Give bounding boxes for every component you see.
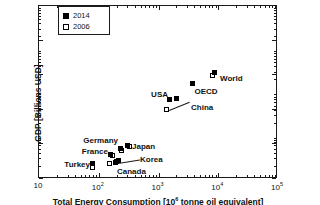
- x-tick-minor: [57, 175, 58, 177]
- x-tick-minor: [216, 6, 217, 8]
- y-tick-minor: [39, 94, 41, 95]
- y-tick-minor: [39, 145, 41, 146]
- x-tick-minor: [68, 175, 69, 177]
- x-tick-minor: [209, 175, 210, 177]
- x-tick-minor: [269, 175, 270, 177]
- y-tick-minor: [39, 59, 41, 60]
- y-tick-minor: [39, 19, 41, 20]
- x-tick-minor: [265, 6, 266, 8]
- y-tick-minor: [39, 62, 41, 63]
- x-tick-minor: [200, 175, 201, 177]
- point-label-china: China: [191, 103, 213, 112]
- x-tick-minor: [176, 6, 177, 8]
- x-tick-minor: [265, 175, 266, 177]
- y-tick-minor: [39, 56, 41, 57]
- x-tick-minor: [216, 175, 217, 177]
- y-tick-minor: [39, 102, 41, 103]
- leader-line-china: [169, 102, 190, 111]
- x-tick-minor: [156, 175, 157, 177]
- y-tick-minor: [39, 153, 41, 154]
- legend-label-2006: 2006: [73, 22, 90, 31]
- x-tick-label-100000: 105: [271, 181, 283, 192]
- x-tick-minor: [153, 6, 154, 8]
- data-point-2014-china[interactable]: [174, 96, 179, 101]
- y-tick-minor: [39, 29, 41, 30]
- x-tick-minor: [247, 6, 248, 8]
- y-tick-minor: [274, 51, 276, 52]
- x-tick-minor: [176, 175, 177, 177]
- y-tick-minor: [274, 19, 276, 20]
- x-tick-minor: [145, 175, 146, 177]
- y-tick-minor: [274, 145, 276, 146]
- y-tick-minor: [39, 166, 41, 167]
- x-tick-minor: [194, 6, 195, 8]
- x-tick-label-1000: 103: [152, 181, 164, 192]
- legend-entry-2006[interactable]: 2006: [63, 21, 105, 32]
- y-tick-minor: [274, 59, 276, 60]
- x-tick-minor: [194, 175, 195, 177]
- y-tick-minor: [274, 138, 276, 139]
- x-tick-minor: [85, 175, 86, 177]
- y-tick-minor: [39, 13, 41, 14]
- point-label-usa: USA: [151, 90, 168, 99]
- y-tick-minor: [274, 8, 276, 9]
- y-tick-minor: [274, 153, 276, 154]
- y-tick-minor: [274, 140, 276, 141]
- y-tick-minor: [39, 123, 41, 124]
- data-point-2014-world[interactable]: [212, 70, 217, 75]
- y-tick-minor: [274, 158, 276, 159]
- x-tick-minor: [149, 175, 150, 177]
- y-tick-minor: [274, 29, 276, 30]
- y-tick-minor: [274, 106, 276, 107]
- y-tick-minor: [274, 62, 276, 63]
- x-tick-minor: [187, 175, 188, 177]
- x-tick-major-top: [159, 6, 160, 10]
- x-tick-minor: [117, 175, 118, 177]
- x-tick-minor: [272, 175, 273, 177]
- data-point-2014-germany[interactable]: [118, 146, 123, 151]
- x-tick-minor: [93, 175, 94, 177]
- y-tick-major: [39, 74, 43, 75]
- data-point-2014-turkey[interactable]: [90, 161, 95, 166]
- data-point-2014-japan[interactable]: [125, 143, 130, 148]
- x-tick-minor: [135, 6, 136, 8]
- x-tick-minor: [141, 6, 142, 8]
- x-tick-minor: [127, 6, 128, 8]
- y-tick-minor: [39, 149, 41, 150]
- point-label-turkey: Turkey: [64, 160, 90, 169]
- x-tick-label-100: 102: [92, 181, 104, 192]
- data-point-2006-canada[interactable]: [107, 161, 112, 166]
- y-tick-minor: [274, 36, 276, 37]
- x-tick-label-10: 10: [34, 181, 43, 190]
- y-tick-minor: [274, 149, 276, 150]
- y-tick-minor: [274, 142, 276, 143]
- x-axis-title: Total Energy Consumption [106 tonne oil …: [53, 196, 264, 205]
- y-tick-minor: [39, 99, 41, 100]
- y-tick-major-right: [272, 143, 276, 144]
- x-tick-minor: [187, 6, 188, 8]
- x-tick-minor: [254, 175, 255, 177]
- y-tick-minor: [39, 72, 41, 73]
- y-tick-minor: [39, 23, 41, 24]
- y-tick-minor: [39, 140, 41, 141]
- y-tick-minor: [39, 51, 41, 52]
- x-tick-minor: [247, 175, 248, 177]
- x-tick-label-10000: 104: [211, 181, 223, 192]
- y-tick-minor: [39, 79, 41, 80]
- x-tick-minor: [275, 175, 276, 177]
- x-tick-minor: [212, 6, 213, 8]
- x-tick-minor: [236, 175, 237, 177]
- x-tick-minor: [260, 175, 261, 177]
- legend-swatch-filled-square-icon: [63, 13, 69, 19]
- y-tick-minor: [39, 10, 41, 11]
- point-label-oecd: OECD: [195, 87, 218, 96]
- x-tick-minor: [209, 6, 210, 8]
- y-tick-minor: [39, 66, 41, 67]
- data-point-2014-oecd[interactable]: [190, 81, 195, 86]
- leader-line-korea: [118, 160, 140, 164]
- point-label-germany: Germany: [83, 136, 118, 145]
- data-point-2014-france[interactable]: [108, 152, 113, 157]
- legend-entry-2014[interactable]: 2014: [63, 10, 105, 21]
- x-tick-major: [218, 173, 219, 177]
- x-tick-minor: [149, 6, 150, 8]
